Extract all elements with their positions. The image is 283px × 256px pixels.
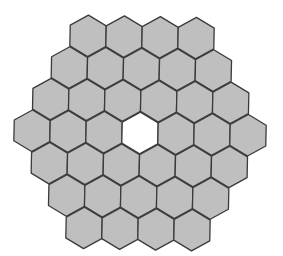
hexagon-grid-diagram (0, 0, 283, 256)
hexagon-layer (12, 14, 269, 253)
